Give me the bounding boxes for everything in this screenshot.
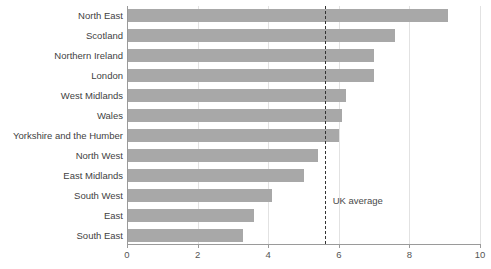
bar-south-west [127,189,272,202]
category-label-row: London [0,66,123,86]
table-row [127,66,480,86]
bar-east-midlands [127,169,304,182]
table-row [127,26,480,46]
table-row [127,106,480,126]
axis-label-wales: Wales [3,106,123,126]
axis-label-east-midlands: East Midlands [3,166,123,186]
axis-label-south-east: South East [3,226,123,246]
category-label-row: West Midlands [0,86,123,106]
category-label-row: North West [0,146,123,166]
axis-label-north-west: North West [3,146,123,166]
category-label-row: South West [0,186,123,206]
table-row [127,186,480,206]
category-label-row: Northern Ireland [0,46,123,66]
gridline-10 [480,6,481,244]
bar-east [127,209,254,222]
x-tick-label-8: 8 [394,249,424,261]
bar-north-east [127,9,448,22]
axis-label-east: East [3,206,123,226]
table-row [127,146,480,166]
category-label-row: East Midlands [0,166,123,186]
axis-label-west-midlands: West Midlands [3,86,123,106]
x-tick-0 [127,244,128,248]
x-tick-label-4: 4 [253,249,283,261]
x-tick-6 [339,244,340,248]
table-row [127,6,480,26]
category-label-row: North East [0,6,123,26]
bar-yorkshire-and-the-humber [127,129,339,142]
table-row [127,86,480,106]
x-tick-10 [480,244,481,248]
axis-label-london: London [3,66,123,86]
x-axis-line [127,244,481,245]
x-tick-2 [198,244,199,248]
axis-label-yorkshire-and-the-humber: Yorkshire and the Humber [3,126,123,146]
bar-chart: North East Scotland Northern Ireland Lon… [0,0,491,269]
uk-average-annotation: UK average [333,195,383,206]
bar-london [127,69,374,82]
x-tick-8 [409,244,410,248]
x-tick-label-10: 10 [465,249,491,261]
x-tick-label-0: 0 [112,249,142,261]
axis-label-northern-ireland: Northern Ireland [3,46,123,66]
uk-average-line [325,6,326,244]
bar-northern-ireland [127,49,374,62]
x-tick-4 [268,244,269,248]
category-label-row: Wales [0,106,123,126]
bar-south-east [127,229,243,242]
category-label-row: South East [0,226,123,246]
table-row [127,46,480,66]
category-label-row: East [0,206,123,226]
table-row [127,226,480,246]
x-tick-label-6: 6 [324,249,354,261]
category-label-row: Yorkshire and the Humber [0,126,123,146]
category-label-row: Scotland [0,26,123,46]
axis-label-north-east: North East [3,6,123,26]
y-axis-line [127,6,128,244]
x-tick-label-2: 2 [183,249,213,261]
bar-wales [127,109,342,122]
axis-label-scotland: Scotland [3,26,123,46]
plot-area [127,6,480,244]
bar-scotland [127,29,395,42]
bar-west-midlands [127,89,346,102]
table-row [127,126,480,146]
axis-label-south-west: South West [3,186,123,206]
table-row [127,166,480,186]
bar-north-west [127,149,318,162]
table-row [127,206,480,226]
